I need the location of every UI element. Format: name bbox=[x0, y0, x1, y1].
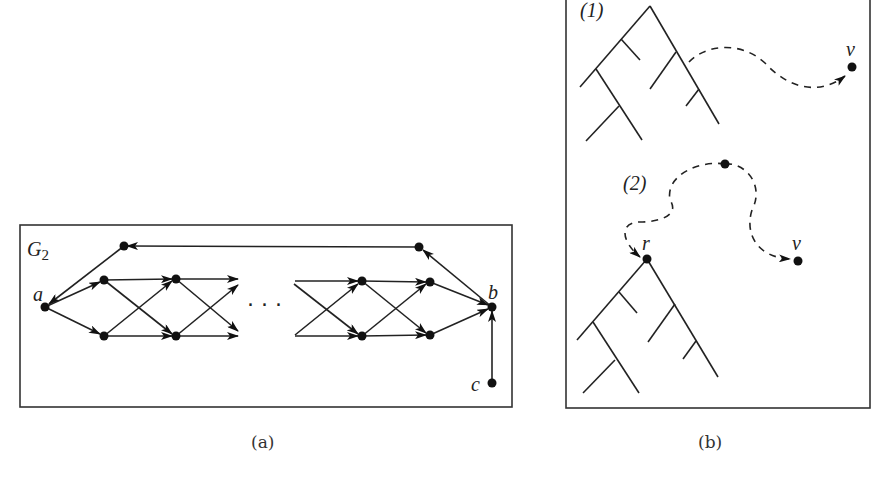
node-middle bbox=[721, 160, 730, 169]
edge-b-topright bbox=[423, 250, 492, 307]
node-b bbox=[488, 303, 497, 312]
label-v-2: v bbox=[792, 232, 801, 254]
node-c4-bottom bbox=[426, 331, 435, 340]
tree2-branch bbox=[593, 322, 639, 393]
tree1-branch bbox=[596, 69, 642, 140]
edge-c2top-out2 bbox=[176, 279, 238, 331]
node-c2-bottom bbox=[172, 332, 181, 341]
node-top-left bbox=[120, 242, 129, 251]
node-c1-top bbox=[100, 276, 109, 285]
caption-a: (a) bbox=[251, 432, 274, 452]
node-c3-bottom bbox=[358, 332, 367, 341]
edge-c3top-c4top bbox=[362, 281, 426, 282]
node-v-1 bbox=[848, 63, 857, 72]
tree2-branch bbox=[648, 304, 675, 342]
tree1-branch bbox=[586, 106, 619, 141]
tree1-right-trunk bbox=[650, 6, 719, 124]
figure: G2 bbox=[0, 0, 886, 492]
edge-a-to-c1bot bbox=[45, 307, 100, 334]
edge-c3bot-c4bot bbox=[362, 335, 426, 336]
label-r: r bbox=[642, 232, 650, 254]
edge-c1top-c2top bbox=[104, 279, 172, 280]
edge-c4bot-b bbox=[430, 309, 488, 335]
panel-b-frame bbox=[566, 0, 870, 408]
node-c4-top bbox=[426, 278, 435, 287]
tree2-right-trunk bbox=[647, 259, 718, 377]
tree-2-more bbox=[583, 304, 696, 393]
tree1-branch bbox=[686, 89, 699, 106]
edge-c1bot-c2top bbox=[104, 281, 172, 336]
label-b: b bbox=[488, 281, 498, 303]
edge-c3bot-c4top bbox=[362, 284, 426, 336]
node-c2-top bbox=[172, 275, 181, 284]
dashed-path-1 bbox=[689, 47, 845, 87]
tree-2 bbox=[577, 259, 718, 377]
graph-label: G2 bbox=[27, 238, 49, 263]
part2-label: (2) bbox=[623, 172, 647, 195]
part1-label: (1) bbox=[580, 0, 604, 22]
panel-b: (1) (2) v bbox=[566, 0, 870, 408]
node-c3-top bbox=[358, 277, 367, 286]
tree2-branch bbox=[619, 292, 637, 313]
tree1-branch bbox=[621, 39, 640, 60]
edge-c4top-b bbox=[430, 282, 488, 305]
node-c bbox=[488, 379, 497, 388]
edge-c2bot-out1 bbox=[176, 285, 238, 336]
dashed-path-2a bbox=[725, 164, 790, 259]
tree2-branch bbox=[583, 360, 615, 393]
tree1-branch bbox=[650, 52, 676, 89]
label-c: c bbox=[471, 373, 480, 395]
panel-a: G2 bbox=[20, 225, 512, 407]
tree2-left-trunk bbox=[577, 259, 647, 340]
ellipsis: · · · bbox=[247, 292, 282, 317]
tree-1 bbox=[580, 6, 719, 141]
node-top-right bbox=[415, 243, 424, 252]
node-c1-bottom bbox=[100, 332, 109, 341]
node-v-2 bbox=[794, 257, 803, 266]
tree2-branch bbox=[683, 341, 696, 359]
edge-c3top-c4bot bbox=[362, 281, 426, 333]
edge-c1top-c2bot bbox=[104, 280, 172, 334]
edge-topleft-to-a bbox=[49, 246, 124, 304]
label-v-1: v bbox=[846, 38, 855, 60]
caption-b: (b) bbox=[698, 432, 722, 452]
edge-top-back bbox=[127, 246, 419, 247]
node-r bbox=[643, 255, 652, 264]
label-a: a bbox=[33, 283, 43, 305]
